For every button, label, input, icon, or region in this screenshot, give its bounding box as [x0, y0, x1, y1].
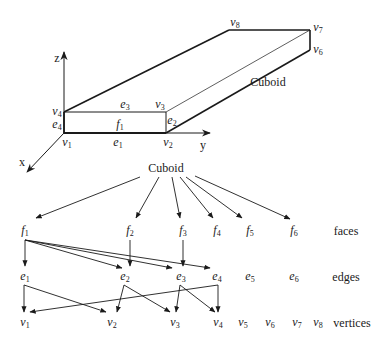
row-label-vertices: vertices	[333, 317, 370, 329]
fig-vertex-v8: v8	[230, 16, 239, 32]
tree-edge-e3: e3	[176, 270, 185, 286]
tree-face-f6: f6	[290, 224, 297, 240]
tree-edge-e4: e4	[212, 270, 221, 286]
fig-vertex-v2: v2	[163, 136, 172, 152]
tree-face-f3: f3	[179, 224, 186, 240]
tree-edge-e1: e1	[20, 270, 29, 286]
tree-face-f2: f2	[126, 224, 133, 240]
y-axis-label: y	[200, 139, 206, 151]
tree-vertex-v6: v6	[265, 316, 274, 332]
tree-vertex-v1: v1	[20, 316, 29, 332]
edge-v2-v6	[166, 50, 310, 133]
tree-vertex-v2: v2	[107, 316, 116, 332]
cuboid-figure-label: Cuboid	[250, 76, 285, 88]
tree-edge-e6: e6	[289, 270, 298, 286]
tree-face-f5: f5	[246, 224, 253, 240]
tree-vertex-v5: v5	[238, 316, 247, 332]
x-axis-label: x	[19, 156, 25, 168]
edge-v4-v8	[64, 30, 229, 112]
fig-edge-e4: e4	[52, 118, 61, 134]
fig-vertex-v6: v6	[313, 43, 322, 59]
fig-edge-e2: e2	[167, 114, 176, 130]
x-axis	[27, 133, 64, 172]
z-axis-label: z	[54, 52, 59, 64]
tree-face-f4: f4	[213, 224, 220, 240]
tree-edge-e5: e5	[245, 270, 254, 286]
fig-vertex-v1: v1	[62, 136, 71, 152]
tree-face-f1: f1	[21, 224, 28, 240]
fig-vertex-v3: v3	[155, 98, 164, 114]
fig-edge-e1: e1	[113, 136, 122, 152]
tree-vertex-v7: v7	[292, 316, 301, 332]
tree-arrows	[24, 176, 290, 312]
fig-face-f1: f1	[116, 118, 123, 134]
tree-edge-e2: e2	[120, 270, 129, 286]
row-label-faces: faces	[334, 225, 359, 237]
fig-edge-e3: e3	[120, 98, 129, 114]
tree-root-cuboid: Cuboid	[148, 162, 183, 174]
edge-v3-v7	[166, 30, 310, 112]
fig-vertex-v7: v7	[313, 21, 322, 37]
row-label-edges: edges	[332, 271, 359, 283]
tree-vertex-v8: v8	[313, 316, 322, 332]
tree-vertex-v3: v3	[170, 316, 179, 332]
tree-vertex-v4: v4	[213, 316, 222, 332]
